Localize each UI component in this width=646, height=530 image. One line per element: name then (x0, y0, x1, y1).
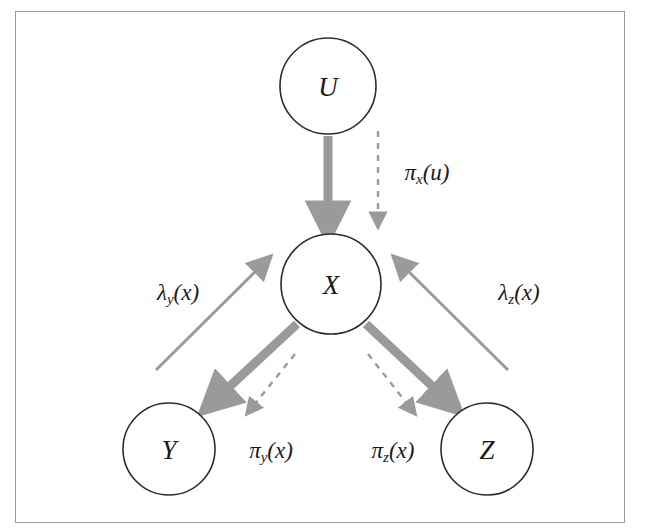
node-layer (123, 38, 533, 495)
edge-label-lambda-y-x-subscript: y (167, 291, 174, 307)
edge-x-to-z (366, 324, 447, 400)
node-label-z: Z (479, 437, 494, 464)
figure-root: U X Y Z πx(u) λy(x) λz(x) πy(x) πz(x) (0, 0, 646, 530)
edge-label-pi-z-x: πz(x) (372, 439, 415, 466)
node-label-x: X (323, 272, 340, 299)
edge-label-lambda-y-x-argument: (x) (174, 280, 200, 305)
edge-label-pi-z-x-argument: (x) (389, 438, 415, 463)
edge-label-pi-x-u-argument: (u) (423, 160, 450, 185)
edge-lambda-y-x (156, 262, 265, 370)
edge-label-pi-y-x: πy(x) (249, 439, 293, 466)
edge-label-pi-y-x-base: π (249, 438, 261, 463)
node-label-y: Y (161, 437, 176, 464)
edge-label-lambda-z-x: λz(x) (498, 281, 539, 308)
node-label-u: U (318, 74, 338, 101)
edge-label-pi-z-x-base: π (372, 438, 384, 463)
edge-lambda-z-x (399, 262, 508, 370)
edge-label-lambda-z-x-base: λ (498, 280, 508, 305)
edge-x-to-y (215, 324, 297, 400)
edge-label-lambda-z-x-argument: (x) (514, 280, 540, 305)
edge-label-pi-y-x-argument: (x) (267, 438, 293, 463)
edge-label-pi-x-u: πx(u) (404, 161, 449, 188)
edge-label-pi-x-u-base: π (404, 160, 416, 185)
edge-label-lambda-y-x-base: λ (157, 280, 167, 305)
edge-label-lambda-y-x: λy(x) (157, 281, 199, 308)
